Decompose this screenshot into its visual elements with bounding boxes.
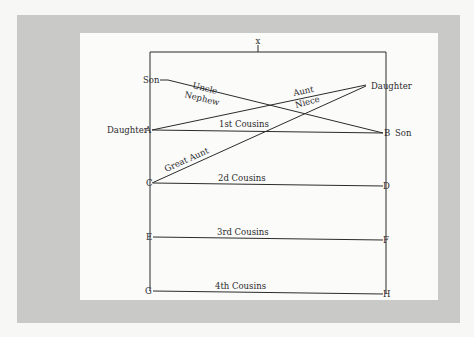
kinship-diagram: x Son Daughter Daughter A B Son C D E F … — [0, 0, 474, 337]
second-cousins-line — [153, 183, 383, 186]
node-h: H — [383, 289, 390, 299]
a-person-label: Daughter — [107, 125, 149, 135]
node-a: A — [144, 125, 152, 135]
first-cousins-label: 1st Cousins — [219, 119, 269, 129]
second-cousins-label: 2d Cousins — [218, 173, 266, 183]
left-son-label: Son — [143, 75, 160, 85]
b-person-label: Son — [395, 128, 412, 138]
fourth-cousins-line — [153, 291, 383, 294]
ancestor-label: x — [256, 36, 261, 46]
fourth-cousins-label: 4th Cousins — [215, 281, 266, 291]
third-cousins-label: 3rd Cousins — [217, 227, 269, 237]
node-b: B — [384, 128, 390, 138]
node-c: C — [146, 178, 153, 188]
c-to-daughter-line — [152, 86, 366, 183]
third-cousins-line — [153, 237, 383, 240]
node-g: G — [145, 286, 152, 296]
right-daughter-label: Daughter — [371, 81, 413, 91]
node-f: F — [383, 235, 389, 245]
node-d: D — [383, 181, 390, 191]
node-e: E — [146, 232, 152, 242]
